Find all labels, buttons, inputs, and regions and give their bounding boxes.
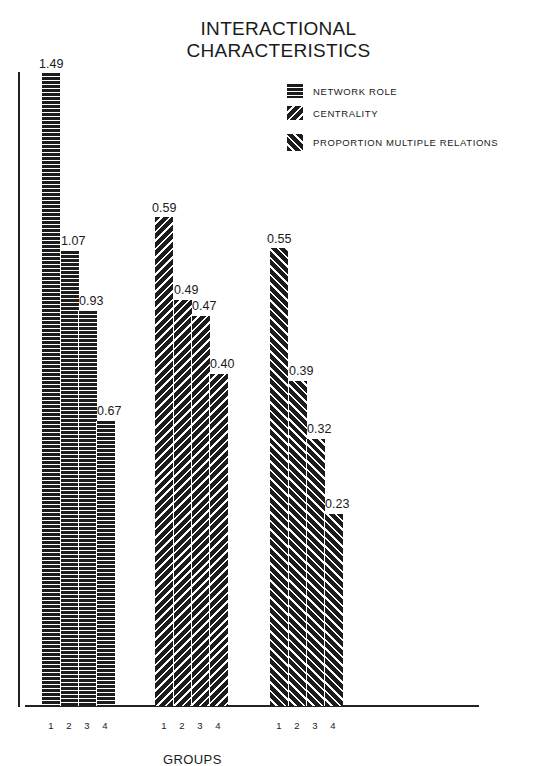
bar — [96, 421, 115, 706]
data-label: 0.67 — [97, 404, 121, 418]
bar — [173, 300, 192, 706]
x-axis-label: GROUPS — [163, 752, 222, 766]
data-label: 0.55 — [267, 232, 291, 246]
data-label: 1.07 — [61, 234, 85, 248]
x-tick-label: 3 — [194, 720, 206, 731]
x-tick-label: 2 — [63, 720, 75, 731]
bar — [42, 73, 60, 706]
bar — [270, 248, 288, 706]
x-tick-label: 3 — [81, 720, 93, 731]
chart-title-line-2: CHARACTERISTICS — [0, 40, 547, 62]
x-tick-label: 3 — [309, 720, 321, 731]
chart-title: INTERACTIONAL CHARACTERISTICS — [0, 18, 547, 62]
bar — [155, 217, 173, 706]
backward-hatch-swatch-icon — [287, 134, 303, 151]
x-tick-label: 4 — [327, 720, 339, 731]
legend-label: NETWORK ROLE — [313, 86, 397, 97]
data-label: 0.23 — [325, 497, 349, 511]
data-label: 0.39 — [289, 364, 313, 378]
data-label: 0.40 — [210, 357, 234, 371]
bar — [60, 251, 79, 706]
chart-title-line-1: INTERACTIONAL — [0, 18, 547, 40]
x-tick-label: 1 — [273, 720, 285, 731]
bar — [306, 439, 325, 706]
x-tick-label: 4 — [212, 720, 224, 731]
y-axis — [18, 72, 20, 707]
bar — [209, 374, 228, 706]
data-label: 0.59 — [152, 201, 176, 215]
legend-item-proportion-multiple-relations: PROPORTION MULTIPLE RELATIONS — [287, 134, 498, 151]
bar — [288, 381, 307, 706]
data-label: 1.49 — [39, 57, 63, 71]
data-label: 0.49 — [174, 283, 198, 297]
data-label: 0.32 — [307, 422, 331, 436]
bar — [191, 316, 210, 706]
legend-label: CENTRALITY — [313, 108, 378, 119]
forward-hatch-swatch-icon — [287, 106, 303, 120]
legend-label: PROPORTION MULTIPLE RELATIONS — [313, 137, 498, 148]
x-tick-label: 2 — [176, 720, 188, 731]
x-tick-label: 2 — [291, 720, 303, 731]
x-tick-label: 1 — [158, 720, 170, 731]
data-label: 0.93 — [79, 294, 103, 308]
bar — [78, 311, 97, 706]
data-label: 0.47 — [192, 299, 216, 313]
legend-item-network-role: NETWORK ROLE — [287, 84, 397, 98]
x-tick-label: 4 — [99, 720, 111, 731]
bar — [324, 514, 343, 706]
horizontal-lines-swatch-icon — [287, 84, 303, 98]
x-tick-label: 1 — [45, 720, 57, 731]
legend-item-centrality: CENTRALITY — [287, 106, 378, 120]
